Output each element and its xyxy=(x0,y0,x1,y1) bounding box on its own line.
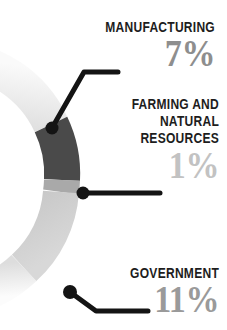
donut-segment-government xyxy=(24,192,61,268)
donut-chart-infographic: MANUFACTURING 7% FARMING AND NATURAL RES… xyxy=(0,0,227,330)
callout-farming: FARMING AND NATURAL RESOURCES 1% xyxy=(19,97,219,183)
callout-government-label: GOVERNMENT xyxy=(47,266,219,280)
callout-farming-value: 1% xyxy=(35,148,219,183)
callout-government: GOVERNMENT 11% xyxy=(19,266,219,317)
callout-manufacturing: MANUFACTURING 7% xyxy=(25,20,215,71)
callout-manufacturing-value: 7% xyxy=(40,36,215,71)
callout-farming-label-line3: RESOURCES xyxy=(47,131,219,145)
callout-farming-label-line1: FARMING AND xyxy=(47,97,219,111)
callout-government-value: 11% xyxy=(35,282,219,317)
callout-manufacturing-label: MANUFACTURING xyxy=(52,20,215,34)
callout-farming-label-line2: NATURAL xyxy=(47,114,219,128)
